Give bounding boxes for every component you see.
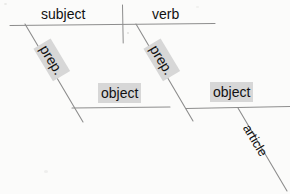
object-baseline-left-line: [72, 107, 170, 108]
scan-speck-4: [196, 6, 199, 8]
scan-speck-3: [44, 170, 48, 173]
label-object-left: object: [98, 86, 141, 100]
baseline-line: [10, 24, 215, 26]
scan-speck-2: [4, 3, 7, 5]
scan-speck-1: [127, 32, 129, 34]
label-subject: subject: [41, 7, 85, 21]
subject-verb-divider-line: [123, 5, 124, 43]
sentence-diagram-canvas: subject verb prep. prep. object object a…: [0, 0, 290, 194]
label-verb: verb: [152, 7, 179, 21]
label-object-right-text: object: [210, 82, 253, 102]
label-object-right: object: [210, 85, 253, 99]
label-object-left-text: object: [98, 83, 141, 103]
